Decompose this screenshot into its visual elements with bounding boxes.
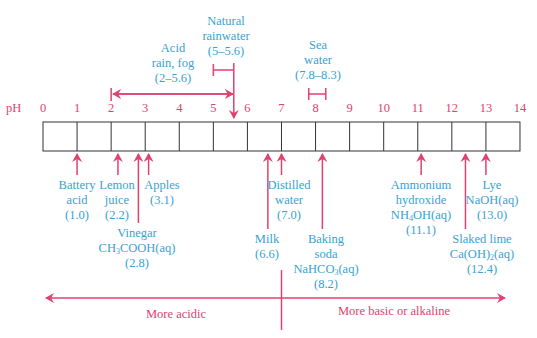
label-lye: LyeNaOH(aq)(13.0) [466, 178, 519, 223]
label-slaked-lime: Slaked limeCa(OH)2(aq)(12.4) [450, 232, 514, 277]
label-baking-soda: BakingsodaNaHCO3(aq)(8.2) [293, 232, 358, 292]
ph-scale-diagram: pH 01234567891011121314 Naturalrainwater… [0, 0, 537, 338]
tick-label: 9 [347, 101, 353, 115]
ph-axis-label: pH [6, 101, 21, 115]
tick-label: 13 [480, 101, 493, 115]
tick-label: 3 [142, 101, 148, 115]
tick-label: 7 [278, 101, 284, 115]
label-natural-rainwater: Naturalrainwater(5–5.6) [202, 14, 249, 59]
tick-label: 12 [446, 101, 459, 115]
more-acidic-label: More acidic [146, 307, 206, 321]
tick-label: 14 [514, 101, 527, 115]
tick-label: 5 [210, 101, 216, 115]
label-apples: Apples(3.1) [144, 178, 179, 208]
label-ammonium-hydroxide: AmmoniumhydroxideNH4OH(aq)(11.1) [391, 178, 451, 238]
label-lemon-juice: Lemonjuice(2.2) [99, 178, 134, 223]
tick-label: 4 [176, 101, 182, 115]
more-basic-label: More basic or alkaline [338, 304, 450, 318]
ph-scale-boxes [43, 122, 520, 151]
label-milk: Milk(6.6) [255, 232, 279, 262]
tick-label: 2 [108, 101, 114, 115]
tick-label: 6 [244, 101, 250, 115]
tick-label: 0 [40, 101, 46, 115]
label-sea-water: Seawater(7.8–8.3) [295, 38, 341, 83]
tick-label: 1 [74, 101, 80, 115]
label-vinegar: VinegarCH3COOH(aq)(2.8) [99, 226, 176, 271]
label-battery-acid: Batteryacid(1.0) [59, 178, 96, 223]
label-acid-rain: Acidrain, fog(2–5.6) [152, 41, 194, 86]
tick-label: 8 [312, 101, 318, 115]
diagram-graphics [0, 0, 537, 338]
tick-label: 11 [412, 101, 424, 115]
tick-label: 10 [377, 101, 390, 115]
label-distilled-water: Distilledwater(7.0) [267, 178, 310, 223]
